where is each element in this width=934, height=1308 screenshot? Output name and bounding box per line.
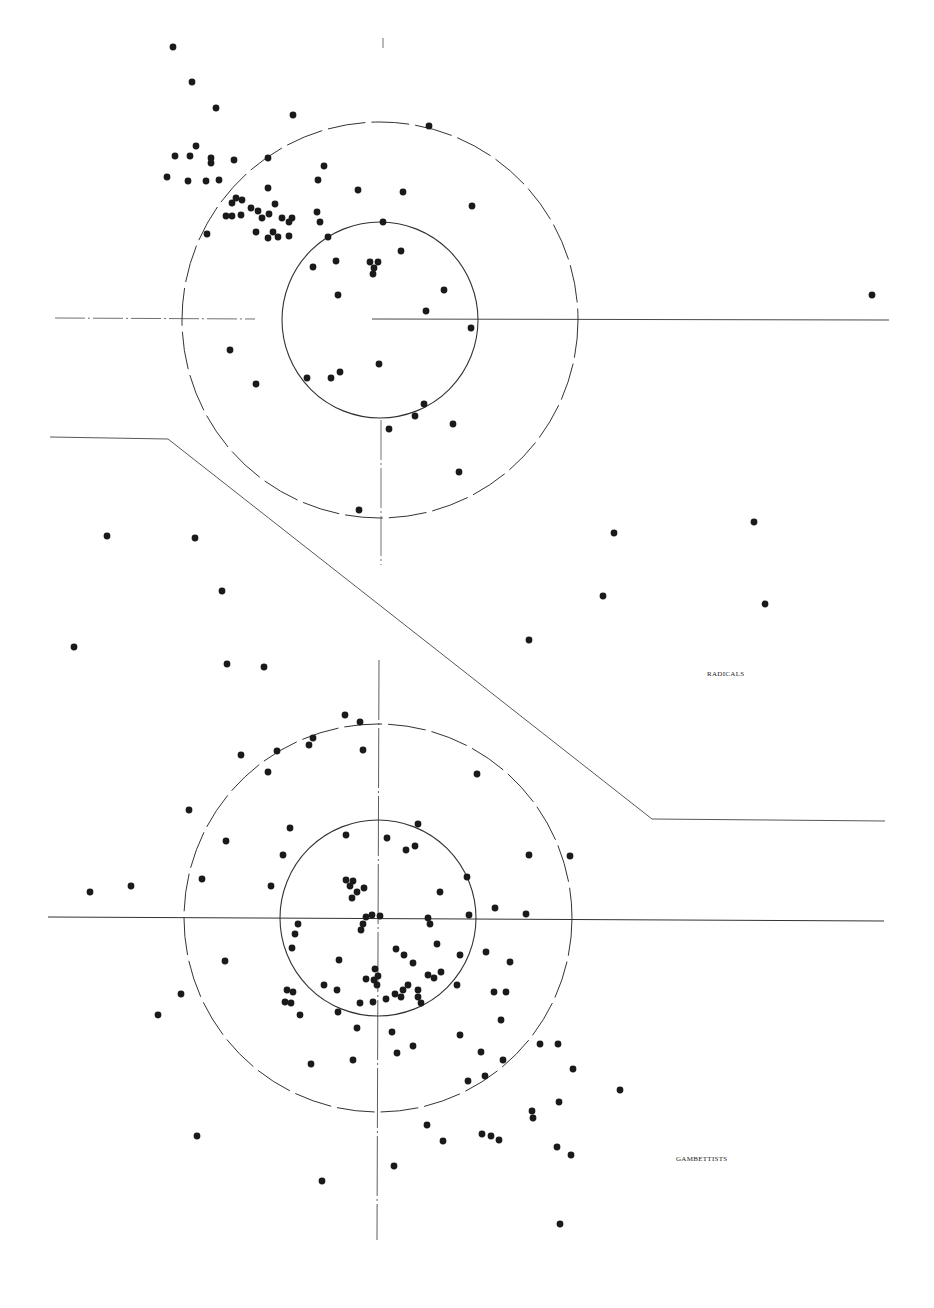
data-point <box>265 155 272 162</box>
data-point <box>557 1221 564 1228</box>
data-point <box>265 769 272 776</box>
data-point <box>268 883 275 890</box>
data-point <box>556 1099 563 1106</box>
data-point <box>492 905 499 912</box>
data-point <box>386 426 393 433</box>
data-point <box>223 213 230 220</box>
data-point <box>465 1078 472 1085</box>
data-point <box>164 174 171 181</box>
data-point <box>600 593 607 600</box>
data-point <box>496 1137 503 1144</box>
data-point <box>193 143 200 150</box>
data-point <box>155 1012 162 1019</box>
data-point <box>526 852 533 859</box>
data-point <box>424 1122 431 1129</box>
data-point <box>208 160 215 167</box>
data-point <box>423 308 430 315</box>
data-point <box>554 1144 561 1151</box>
data-point <box>315 177 322 184</box>
data-point <box>412 843 419 850</box>
data-point <box>189 79 196 86</box>
axes-group <box>48 38 889 1240</box>
data-point <box>219 588 226 595</box>
data-point <box>238 752 245 759</box>
data-point <box>469 203 476 210</box>
data-point <box>308 1061 315 1068</box>
data-point <box>328 375 335 382</box>
inner-circle <box>282 222 478 418</box>
data-point <box>380 219 387 226</box>
data-point <box>412 413 419 420</box>
data-point <box>187 153 194 160</box>
data-point <box>325 234 332 241</box>
data-point <box>87 889 94 896</box>
data-point <box>357 719 364 726</box>
data-point <box>319 1178 326 1185</box>
data-point <box>371 265 378 272</box>
data-point <box>617 1087 624 1094</box>
data-point <box>393 946 400 953</box>
data-point <box>259 215 266 222</box>
data-point <box>415 987 422 994</box>
data-point <box>498 1017 505 1024</box>
data-point <box>280 852 287 859</box>
data-point <box>434 941 441 948</box>
data-point <box>398 248 405 255</box>
data-point <box>456 469 463 476</box>
data-point <box>282 999 289 1006</box>
data-point <box>270 229 277 236</box>
data-point <box>367 259 374 266</box>
data-point <box>274 748 281 755</box>
data-point <box>261 664 268 671</box>
data-point <box>400 189 407 196</box>
data-point <box>194 1133 201 1140</box>
data-point <box>376 361 383 368</box>
data-point <box>255 208 262 215</box>
data-point <box>288 1000 295 1007</box>
data-point <box>199 876 206 883</box>
data-point <box>343 877 350 884</box>
data-point <box>568 1152 575 1159</box>
data-point <box>306 742 313 749</box>
reference-circles <box>182 122 578 1112</box>
data-point <box>377 913 384 920</box>
data-point <box>253 229 260 236</box>
data-point <box>289 945 296 952</box>
data-point <box>483 949 490 956</box>
data-point <box>317 219 324 226</box>
data-point <box>474 771 481 778</box>
data-point <box>265 235 272 242</box>
data-point <box>363 976 370 983</box>
data-point <box>297 1012 304 1019</box>
data-point <box>478 1049 485 1056</box>
data-point <box>360 747 367 754</box>
data-point <box>321 163 328 170</box>
data-point <box>178 991 185 998</box>
data-point <box>272 201 279 208</box>
data-point <box>128 883 135 890</box>
data-point <box>314 209 321 216</box>
data-point <box>457 952 464 959</box>
data-point <box>265 185 272 192</box>
data-point <box>216 177 223 184</box>
data-point <box>370 271 377 278</box>
data-point <box>500 1057 507 1064</box>
data-point <box>287 825 294 832</box>
data-point <box>464 874 471 881</box>
data-point <box>437 889 444 896</box>
data-point <box>357 1000 364 1007</box>
data-point <box>438 969 445 976</box>
data-point <box>369 912 376 919</box>
data-point <box>401 952 408 959</box>
radicals-label: RADICALS <box>707 670 744 678</box>
data-point <box>537 1041 544 1048</box>
data-point <box>450 421 457 428</box>
data-point <box>440 1138 447 1145</box>
data-point <box>186 807 193 814</box>
data-point <box>292 931 299 938</box>
data-point <box>335 1009 342 1016</box>
data-point <box>567 853 574 860</box>
data-point <box>172 153 179 160</box>
data-point <box>363 914 370 921</box>
data-point <box>360 921 367 928</box>
